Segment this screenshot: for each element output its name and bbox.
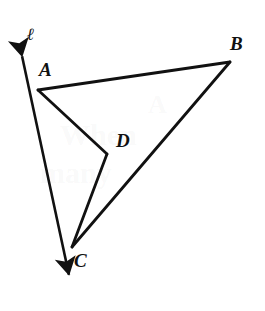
vertex-label-a: A [39,60,52,79]
vertex-label-c: C [74,251,87,270]
segment-ad [38,90,107,154]
geometry-figure: A When many ℓ A B C D [0,0,265,311]
vertex-label-b: B [230,34,243,53]
figure-canvas [0,0,265,311]
segment-bc [72,62,230,247]
segment-ab [38,62,230,90]
vertex-label-d: D [116,131,130,150]
line-l-label: ℓ [27,26,34,43]
segment-dc [72,154,107,247]
